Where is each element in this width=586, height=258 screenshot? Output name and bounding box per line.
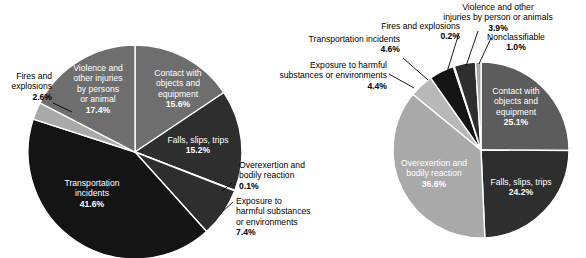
right-pie-chart: Contact withobjects andequipment25.1%Fal… <box>0 0 586 258</box>
slice-value: 25.1% <box>504 117 529 127</box>
slice-label-nonclassifiable: Nonclassifiable1.0% <box>487 32 545 52</box>
leader-line-transportation-incidents <box>403 58 428 80</box>
slice-value: 24.2% <box>509 187 534 197</box>
slice-value: 36.6% <box>422 179 447 189</box>
slice-label-exposure-to-harmful-substances-or-environments: Exposure to harmfulsubstances or environ… <box>280 60 388 91</box>
right-pie-chart-panel: Contact withobjects andequipment25.1%Fal… <box>293 0 586 258</box>
slice-label-transportation-incidents: Transportation incidents4.6% <box>309 34 401 54</box>
slice-value: 0.2% <box>440 31 460 41</box>
slice-value: 4.6% <box>380 44 400 54</box>
leader-line-exposure-to-harmful-substances-or-environments <box>389 74 414 88</box>
slice-value: 4.4% <box>367 81 387 91</box>
right-pie-slices <box>393 62 569 238</box>
leader-line-violence-and-other-injuries-by-person-or-animals <box>466 31 478 66</box>
slice-value: 1.0% <box>506 42 526 52</box>
